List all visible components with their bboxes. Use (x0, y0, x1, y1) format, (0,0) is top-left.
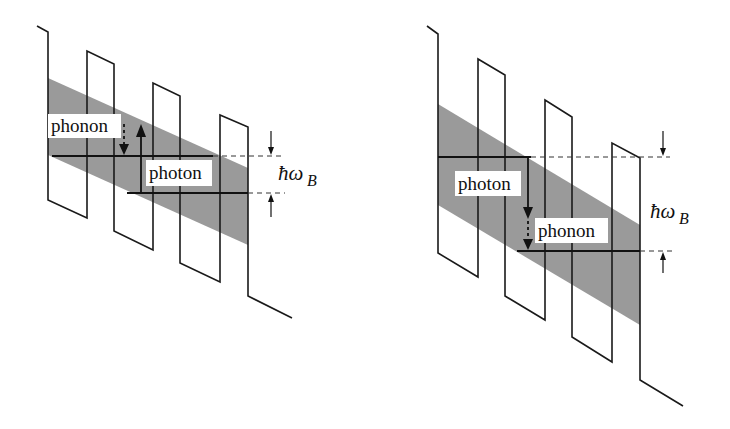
right-energy-label: ħω (650, 199, 675, 223)
left-energy-up-arrowhead-icon (268, 194, 274, 202)
left-energy-label: ħω (278, 161, 303, 185)
right-energy-up-arrowhead-icon (660, 252, 666, 260)
left-phonon-label: phonon (51, 115, 109, 136)
right-phonon-label: phonon (538, 220, 596, 241)
right-energy-down-arrowhead-icon (660, 148, 666, 156)
left-energy-subscript: B (307, 172, 317, 189)
left-photon-label: photon (149, 162, 202, 183)
left-panel: phonon photon ħω B (37, 26, 317, 318)
right-energy-subscript: B (679, 210, 689, 227)
superlattice-diagram: phonon photon ħω B (0, 0, 730, 429)
left-energy-down-arrowhead-icon (268, 147, 274, 155)
right-panel: photon phonon ħω B (427, 26, 689, 406)
right-photon-label: photon (458, 173, 511, 194)
right-miniband (438, 104, 640, 325)
